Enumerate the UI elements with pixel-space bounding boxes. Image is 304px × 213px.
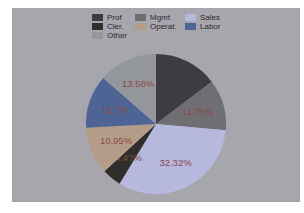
slice-label: 11.75% [182,106,214,117]
slice-label: 32.32% [159,157,192,168]
pie-chart: 11.75%32.32%4.4?%10.95%12.?%13.58% [0,0,304,213]
slice-label: 12.?% [101,104,128,115]
slice-label: 13.58% [122,78,155,89]
slice-label: 10.95% [100,135,133,146]
